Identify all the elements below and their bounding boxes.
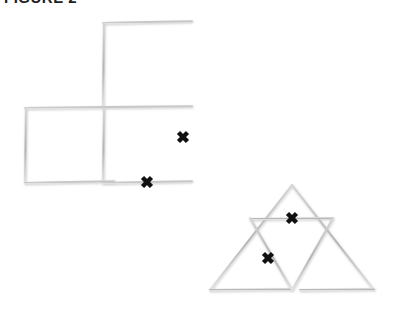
bottom-left-square-left-edge xyxy=(25,108,26,183)
triangle-xmark-upper xyxy=(288,214,297,223)
triangle-figure xyxy=(210,185,374,290)
midline-right-diagonal xyxy=(292,218,333,290)
center-vertical-edge xyxy=(103,108,104,183)
figure-illustration xyxy=(0,0,404,320)
base-edge-right xyxy=(300,289,374,290)
figure-canvas: FIGURE 2 xyxy=(0,0,404,320)
squares-figure xyxy=(25,21,192,183)
bottom-edge-left xyxy=(25,181,114,183)
square-xmark-bottom xyxy=(143,178,152,187)
base-edge-left xyxy=(210,289,292,290)
square-xmark-right xyxy=(179,133,188,142)
top-square-left-edge xyxy=(103,23,104,107)
triangle-xmark-lower xyxy=(264,254,273,263)
outer-left-edge xyxy=(210,185,292,290)
outer-right-edge xyxy=(292,185,374,290)
xmarks-layer xyxy=(143,133,297,263)
top-square-top-edge xyxy=(103,21,192,23)
middle-horizontal-edge xyxy=(25,106,192,108)
